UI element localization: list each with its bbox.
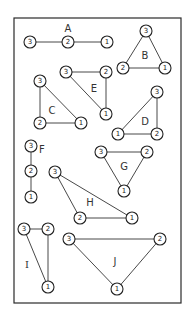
node-number: 2 bbox=[66, 38, 70, 46]
graph-label-b: B bbox=[142, 50, 149, 61]
edge-3-1 bbox=[40, 81, 81, 123]
node-number: 3 bbox=[29, 142, 33, 150]
graph-g-node-1: 1 bbox=[118, 185, 130, 197]
graph-b-node-2: 2 bbox=[117, 62, 129, 74]
graph-label-g: G bbox=[120, 161, 128, 172]
graph-d-node-1: 1 bbox=[112, 128, 124, 140]
graph-label-j: J bbox=[113, 256, 117, 267]
graph-i-node-3: 3 bbox=[18, 223, 30, 235]
node-number: 2 bbox=[158, 235, 162, 243]
graph-a-node-3: 3 bbox=[24, 36, 36, 48]
graph-label-a: A bbox=[65, 23, 72, 34]
graph-f-node-2: 2 bbox=[25, 165, 37, 177]
edge-2-1 bbox=[117, 239, 160, 289]
graph-h-node-2: 2 bbox=[74, 212, 86, 224]
node-number: 2 bbox=[78, 214, 82, 222]
node-number: 3 bbox=[53, 168, 57, 176]
edge-2-1 bbox=[124, 152, 147, 191]
node-number: 1 bbox=[116, 130, 120, 138]
graph-j-node-2: 2 bbox=[154, 233, 166, 245]
graph-b-node-3: 3 bbox=[140, 25, 152, 37]
node-number: 1 bbox=[29, 193, 33, 201]
graph-c-edges bbox=[40, 81, 81, 123]
graph-d-node-2: 2 bbox=[151, 128, 163, 140]
node-number: 3 bbox=[144, 27, 148, 35]
graph-e-node-3: 3 bbox=[60, 66, 72, 78]
node-number: 2 bbox=[46, 225, 50, 233]
graph-label-e: E bbox=[91, 83, 97, 94]
node-number: 2 bbox=[29, 167, 33, 175]
node-number: 2 bbox=[121, 64, 125, 72]
graph-label-d: D bbox=[141, 116, 149, 127]
node-number: 2 bbox=[155, 130, 159, 138]
node-number: 1 bbox=[130, 214, 134, 222]
node-number: 3 bbox=[22, 225, 26, 233]
edge-3-1 bbox=[66, 72, 106, 114]
node-number: 2 bbox=[104, 68, 108, 76]
node-number: 1 bbox=[104, 110, 108, 118]
graph-e-node-2: 2 bbox=[100, 66, 112, 78]
graph-f-node-1: 1 bbox=[25, 191, 37, 203]
node-number: 1 bbox=[115, 285, 119, 293]
nodes-layer: 321321321321312321321321321321 bbox=[18, 25, 171, 295]
graph-b-node-1: 1 bbox=[159, 62, 171, 74]
node-number: 2 bbox=[145, 148, 149, 156]
edge-3-1 bbox=[101, 152, 124, 191]
graph-label-h: H bbox=[86, 197, 94, 208]
node-number: 1 bbox=[46, 283, 50, 291]
edge-3-2 bbox=[55, 172, 80, 218]
graph-c-node-1: 1 bbox=[75, 117, 87, 129]
node-number: 1 bbox=[122, 187, 126, 195]
graph-h-node-3: 3 bbox=[49, 166, 61, 178]
graph-i-node-1: 1 bbox=[42, 281, 54, 293]
graph-e-node-1: 1 bbox=[100, 108, 112, 120]
graph-d-edges bbox=[118, 92, 157, 134]
node-number: 3 bbox=[67, 235, 71, 243]
edge-3-1 bbox=[69, 239, 117, 289]
edge-3-1 bbox=[118, 92, 157, 134]
node-number: 3 bbox=[28, 38, 32, 46]
graph-label-f: F bbox=[39, 144, 45, 155]
graph-f-node-3: 3 bbox=[25, 140, 37, 152]
graph-g-node-3: 3 bbox=[95, 146, 107, 158]
node-number: 3 bbox=[99, 148, 103, 156]
node-number: 1 bbox=[163, 64, 167, 72]
edges-layer bbox=[24, 31, 165, 289]
graph-j-node-3: 3 bbox=[63, 233, 75, 245]
graph-a-node-2: 2 bbox=[62, 36, 74, 48]
graph-e-edges bbox=[66, 72, 106, 114]
graph-label-i: I bbox=[25, 259, 29, 270]
graph-j-node-1: 1 bbox=[111, 283, 123, 295]
graph-label-c: C bbox=[49, 105, 56, 116]
graph-d-node-3: 3 bbox=[151, 86, 163, 98]
graph-h-node-1: 1 bbox=[126, 212, 138, 224]
node-number: 3 bbox=[64, 68, 68, 76]
node-number: 1 bbox=[105, 38, 109, 46]
graph-c-node-3: 3 bbox=[34, 75, 46, 87]
node-number: 1 bbox=[79, 119, 83, 127]
graph-figure: 321321321321312321321321321321 ABECDFGHI… bbox=[0, 0, 184, 311]
graph-a-node-1: 1 bbox=[101, 36, 113, 48]
graph-i-node-2: 2 bbox=[42, 223, 54, 235]
node-number: 3 bbox=[38, 77, 42, 85]
graph-g-node-2: 2 bbox=[141, 146, 153, 158]
node-number: 3 bbox=[155, 88, 159, 96]
node-number: 2 bbox=[38, 119, 42, 127]
graph-c-node-2: 2 bbox=[34, 117, 46, 129]
figure-frame bbox=[14, 18, 181, 303]
